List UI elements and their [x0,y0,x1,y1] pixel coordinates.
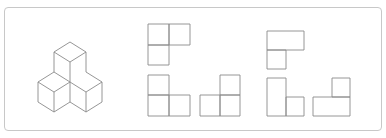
puzzle-canvas [0,0,386,138]
cube-bottom-right [70,72,102,112]
cube-top [54,42,86,82]
view-option-2[interactable] [148,75,190,116]
view-option-4[interactable] [267,31,304,69]
view-option-1[interactable] [148,24,190,65]
cube-stack-figure [38,42,102,112]
cube-bottom-left [38,72,70,112]
view-option-6[interactable] [313,78,350,116]
view-option-3[interactable] [200,75,240,116]
view-option-5[interactable] [267,78,304,116]
